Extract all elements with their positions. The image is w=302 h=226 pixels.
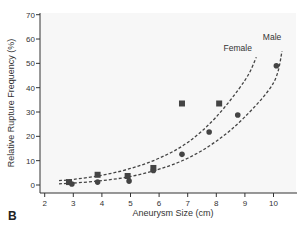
y-tick-label: 70 bbox=[26, 11, 35, 20]
male-data-point bbox=[95, 179, 101, 185]
female-curve-label: Female bbox=[224, 43, 253, 53]
x-tick-label: 6 bbox=[157, 199, 162, 208]
male-curve-label: Male bbox=[263, 32, 282, 42]
male-data-point bbox=[151, 168, 157, 174]
male-data-point bbox=[206, 129, 212, 135]
male-data-point bbox=[126, 178, 132, 184]
x-tick-label: 8 bbox=[214, 199, 219, 208]
panel-label: B bbox=[8, 209, 17, 223]
x-tick-label: 2 bbox=[42, 199, 47, 208]
y-tick-label: 60 bbox=[26, 35, 35, 44]
y-tick-label: 10 bbox=[26, 157, 35, 166]
rupture-frequency-chart: 0102030405060702345678910 FemaleMale Rel… bbox=[0, 0, 302, 226]
x-tick-label: 3 bbox=[71, 199, 76, 208]
y-tick-label: 50 bbox=[26, 59, 35, 68]
x-tick-label: 7 bbox=[185, 199, 190, 208]
y-tick-label: 40 bbox=[26, 84, 35, 93]
x-tick-label: 10 bbox=[269, 199, 278, 208]
x-tick-label: 4 bbox=[100, 199, 105, 208]
x-axis-label: Aneurysm Size (cm) bbox=[132, 208, 213, 218]
female-data-point bbox=[95, 172, 101, 178]
y-tick-label: 0 bbox=[31, 181, 36, 190]
y-axis-label: Relative Rupture Frequency (%) bbox=[6, 39, 16, 168]
male-data-point bbox=[274, 63, 280, 69]
female-data-point bbox=[125, 173, 131, 179]
female-data-point bbox=[179, 100, 185, 106]
y-tick-label: 20 bbox=[26, 132, 35, 141]
male-data-point bbox=[179, 152, 185, 158]
x-tick-label: 5 bbox=[128, 199, 133, 208]
male-data-point bbox=[235, 112, 241, 118]
male-data-point bbox=[69, 181, 75, 187]
x-tick-label: 9 bbox=[243, 199, 248, 208]
female-data-point bbox=[216, 100, 222, 106]
y-tick-label: 30 bbox=[26, 108, 35, 117]
